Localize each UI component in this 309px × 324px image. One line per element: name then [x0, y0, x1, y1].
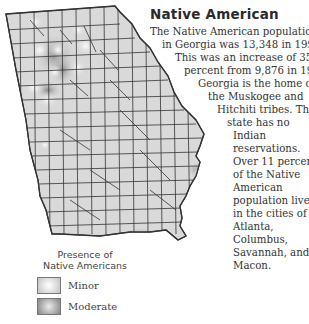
minor-swatch: [37, 277, 61, 294]
text-line: American: [0, 181, 309, 194]
text-line: Columbus,: [0, 233, 309, 246]
description-text: The Native American populationin Georgia…: [0, 25, 309, 272]
moderate-swatch: [37, 298, 61, 315]
text-line: The Native American population: [0, 25, 309, 38]
legend-label: Moderate: [68, 301, 117, 312]
text-line: in Georgia was 13,348 in 1990.: [0, 38, 309, 51]
text-line: reservations.: [0, 142, 309, 155]
legend-title: Presence of Native Americans: [30, 249, 140, 271]
legend-title-line1: Presence of: [30, 249, 140, 260]
text-line: percent from 9,876 in 1980.: [0, 64, 309, 77]
page-title: Native American: [150, 6, 279, 22]
text-line: This was an increase of 35.16: [0, 51, 309, 64]
text-line: Over 11 percent: [0, 155, 309, 168]
text-line: the Muskogee and: [0, 90, 309, 103]
text-line: Georgia is the home of: [0, 77, 309, 90]
legend-title-line2: Native Americans: [30, 260, 140, 271]
text-line: of the Native: [0, 168, 309, 181]
text-line: population lives: [0, 194, 309, 207]
legend-label: Minor: [68, 280, 99, 291]
legend-item-moderate: Moderate: [37, 298, 117, 315]
text-line: state has no: [0, 116, 309, 129]
text-line: Indian: [0, 129, 309, 142]
legend-item-minor: Minor: [37, 277, 99, 294]
text-line: Hitchiti tribes. The: [0, 103, 309, 116]
text-line: in the cities of: [0, 207, 309, 220]
text-line: Atlanta,: [0, 220, 309, 233]
